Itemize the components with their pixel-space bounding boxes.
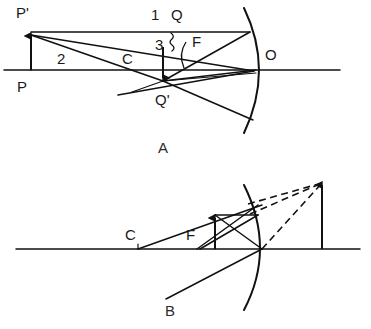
brace-q-a — [170, 33, 174, 51]
label-f-b: F — [186, 226, 195, 243]
label-p-prime-a: P' — [16, 4, 29, 21]
virtual-ray-upper-b — [248, 183, 322, 204]
ray-below-axis-b — [166, 249, 262, 299]
ray-diagram-figure: P' P 2 C 1 Q 3 F Q' O A — [0, 0, 371, 329]
label-c-a: C — [122, 50, 133, 67]
label-q-prime-a: Q' — [155, 91, 170, 108]
figure-canvas: P' P 2 C 1 Q 3 F Q' O A — [0, 0, 371, 329]
label-c-b: C — [125, 226, 136, 243]
ray-3-extension-a — [163, 81, 253, 120]
label-three-a: 3 — [155, 36, 163, 53]
label-q-a: Q — [171, 6, 183, 23]
ray-converging-lower-a — [163, 73, 256, 81]
label-one-a: 1 — [151, 6, 159, 23]
angle-arc-f-a — [181, 42, 186, 68]
ray-from-focus-b — [197, 205, 258, 249]
label-f-a: F — [192, 33, 201, 50]
label-p-a: P — [17, 78, 27, 95]
panel-caption-a: A — [158, 139, 168, 156]
label-o-a: O — [265, 46, 277, 63]
panel-caption-b: B — [165, 302, 175, 319]
concave-mirror-b — [244, 185, 260, 310]
panel-a: P' P 2 C 1 Q 3 F Q' O A — [4, 4, 340, 156]
ray-through-centre-b — [138, 205, 262, 249]
label-two-a: 2 — [57, 50, 65, 67]
ray-reflected-to-vertex-b — [215, 215, 262, 249]
virtual-ray-lower-b — [262, 183, 322, 249]
ray-3-through-focus-a — [31, 35, 163, 81]
ray-cross-b — [200, 215, 258, 249]
panel-b: C F B — [16, 183, 360, 319]
virtual-ray-middle-b — [250, 183, 322, 214]
